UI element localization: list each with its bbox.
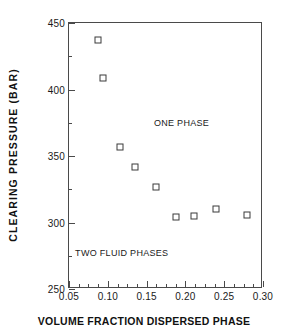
y-axis-tick — [69, 156, 75, 157]
data-point-marker — [94, 37, 101, 44]
y-axis-minor-tick — [69, 256, 72, 257]
y-axis-tick — [69, 223, 75, 224]
x-axis-minor-tick — [234, 284, 235, 287]
x-axis-minor-tick — [244, 284, 245, 287]
x-axis-tick-label: 0.30 — [253, 291, 273, 302]
x-axis-minor-tick — [205, 284, 206, 287]
x-axis-minor-tick — [253, 284, 254, 287]
data-point-marker — [100, 74, 107, 81]
plot-area: 2503003504004500.050.100.150.200.250.30O… — [68, 22, 262, 288]
y-axis-minor-tick — [69, 56, 72, 57]
y-axis-tick — [69, 23, 75, 24]
y-axis-tick — [69, 90, 75, 91]
x-axis-minor-tick — [79, 284, 80, 287]
chart-figure: 2503003504004500.050.100.150.200.250.30O… — [0, 0, 288, 333]
y-axis-minor-tick — [69, 123, 72, 124]
x-axis-tick-label: 0.05 — [59, 291, 79, 302]
x-axis-tick — [185, 281, 186, 287]
x-axis-tick-label: 0.25 — [214, 291, 234, 302]
x-axis-tick-label: 0.20 — [175, 291, 195, 302]
data-point-marker — [117, 143, 124, 150]
x-axis-tick-label: 0.10 — [98, 291, 118, 302]
x-axis-minor-tick — [215, 284, 216, 287]
x-axis-minor-tick — [118, 284, 119, 287]
x-axis-tick-label: 0.15 — [136, 291, 156, 302]
data-point-marker — [152, 183, 159, 190]
x-axis-minor-tick — [176, 284, 177, 287]
x-axis-minor-tick — [88, 284, 89, 287]
x-axis-minor-tick — [166, 284, 167, 287]
y-axis-tick-label: 300 — [48, 217, 65, 228]
x-axis-tick — [224, 281, 225, 287]
x-axis-minor-tick — [195, 284, 196, 287]
region-annotation: ONE PHASE — [154, 118, 209, 128]
x-axis-tick — [263, 281, 264, 287]
data-point-marker — [131, 163, 138, 170]
y-axis-tick — [69, 289, 75, 290]
x-axis-minor-tick — [156, 284, 157, 287]
y-axis-tick-label: 400 — [48, 84, 65, 95]
data-point-marker — [190, 212, 197, 219]
y-axis-tick-label: 450 — [48, 18, 65, 29]
x-axis-minor-tick — [98, 284, 99, 287]
data-point-marker — [243, 211, 250, 218]
x-axis-title: VOLUME FRACTION DISPERSED PHASE — [0, 315, 288, 327]
x-axis-tick — [69, 281, 70, 287]
y-axis-minor-tick — [69, 189, 72, 190]
x-axis-minor-tick — [127, 284, 128, 287]
y-axis-title: CLEARING PRESSURE (BAR) — [7, 68, 19, 241]
x-axis-tick — [108, 281, 109, 287]
data-point-marker — [173, 214, 180, 221]
data-point-marker — [212, 206, 219, 213]
x-axis-tick — [147, 281, 148, 287]
region-annotation: TWO FLUID PHASES — [75, 248, 168, 258]
y-axis-tick-label: 350 — [48, 151, 65, 162]
x-axis-minor-tick — [137, 284, 138, 287]
